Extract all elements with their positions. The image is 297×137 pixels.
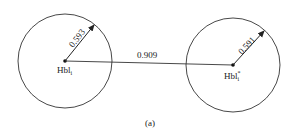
node-right: 0.591 Hbl*i: [186, 18, 280, 112]
right-radius-label: 0.591: [236, 35, 257, 57]
left-radius-label: 0.593: [67, 27, 88, 50]
diagram-canvas: 0.593 Hbli 0.909 0.591 Hbl*i (a): [0, 0, 297, 137]
right-node-label: Hbl*i: [224, 70, 241, 82]
distance-line: [65, 61, 233, 65]
figure-caption: (a): [145, 118, 155, 128]
left-node-label: Hbli: [57, 65, 73, 76]
distance-label: 0.909: [137, 50, 158, 60]
